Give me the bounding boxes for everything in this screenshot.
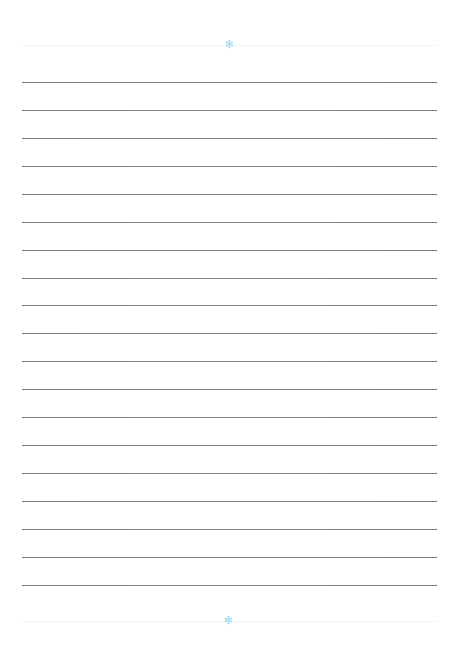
writing-line bbox=[22, 194, 437, 195]
writing-line bbox=[22, 222, 437, 223]
writing-line bbox=[22, 278, 437, 279]
writing-line bbox=[22, 417, 437, 418]
writing-line bbox=[22, 585, 437, 586]
writing-line bbox=[22, 82, 437, 83]
snowflake-icon: ✻ bbox=[224, 40, 234, 50]
snowflake-icon: ✻ bbox=[223, 616, 233, 626]
writing-line bbox=[22, 445, 437, 446]
writing-line bbox=[22, 529, 437, 530]
writing-line bbox=[22, 138, 437, 139]
writing-line bbox=[22, 473, 437, 474]
writing-line bbox=[22, 557, 437, 558]
writing-line bbox=[22, 305, 437, 306]
writing-line bbox=[22, 389, 437, 390]
writing-line bbox=[22, 361, 437, 362]
writing-line bbox=[22, 333, 437, 334]
writing-line bbox=[22, 250, 437, 251]
writing-line bbox=[22, 501, 437, 502]
writing-line bbox=[22, 110, 437, 111]
writing-line bbox=[22, 166, 437, 167]
